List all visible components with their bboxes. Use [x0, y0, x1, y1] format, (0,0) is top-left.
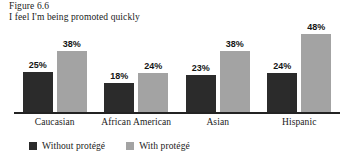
bar	[57, 51, 87, 112]
x-axis-line	[14, 112, 340, 114]
light-swatch-icon	[126, 142, 134, 150]
legend-item: Without protégé	[29, 141, 105, 152]
bar-value-label: 18%	[98, 71, 140, 81]
dark-swatch-icon	[29, 142, 37, 150]
category-label: Asian	[177, 116, 259, 128]
bar-value-label: 48%	[295, 22, 337, 32]
bar-value-label: 23%	[180, 63, 222, 73]
category-label: Caucasian	[14, 116, 96, 128]
bar-group: 24%48%	[267, 28, 331, 112]
bar-group: 23%38%	[186, 28, 250, 112]
bar	[104, 83, 134, 112]
bar	[138, 73, 168, 112]
bar	[186, 75, 216, 112]
bar	[267, 73, 297, 112]
bar	[23, 72, 53, 112]
bar	[301, 34, 331, 112]
bar-value-label: 25%	[17, 60, 59, 70]
bar	[220, 51, 250, 112]
bar-value-label: 38%	[214, 39, 256, 49]
figure-title: I feel I'm being promoted quickly	[9, 12, 140, 23]
figure-number: Figure 6.6	[9, 1, 49, 12]
bar-value-label: 24%	[261, 61, 303, 71]
legend-item-label: Without protégé	[42, 141, 105, 152]
category-axis-labels: CaucasianAfrican AmericanAsianHispanic	[14, 116, 340, 132]
legend-item: With protégé	[126, 141, 190, 152]
bar-value-label: 38%	[51, 39, 93, 49]
category-label: Hispanic	[259, 116, 341, 128]
bar-group: 25%38%	[23, 28, 87, 112]
legend-item-label: With protégé	[139, 141, 190, 152]
figure-container: Figure 6.6 I feel I'm being promoted qui…	[0, 0, 352, 160]
chart-plot-area: 25%38%18%24%23%38%24%48%	[14, 28, 340, 114]
chart-legend: Without protégéWith protégé	[29, 139, 190, 153]
bar-value-label: 24%	[132, 61, 174, 71]
bar-group: 18%24%	[104, 28, 168, 112]
category-label: African American	[96, 116, 178, 128]
